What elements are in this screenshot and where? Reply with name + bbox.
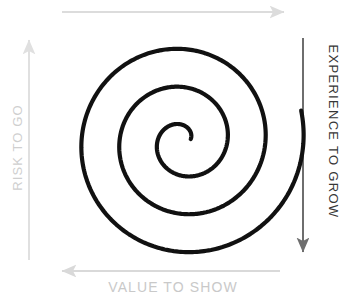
diagram-canvas: RISK TO GO VALUE TO SHOW EXPERIENCE TO G… bbox=[0, 0, 346, 300]
axis-label-value-to-show: VALUE TO SHOW bbox=[0, 279, 346, 295]
axis-label-experience-to-grow: EXPERIENCE TO GROW bbox=[326, 45, 341, 215]
diagram-graphics bbox=[0, 0, 346, 300]
axis-label-risk-to-go: RISK TO GO bbox=[10, 98, 25, 198]
spiral-path bbox=[81, 49, 303, 252]
